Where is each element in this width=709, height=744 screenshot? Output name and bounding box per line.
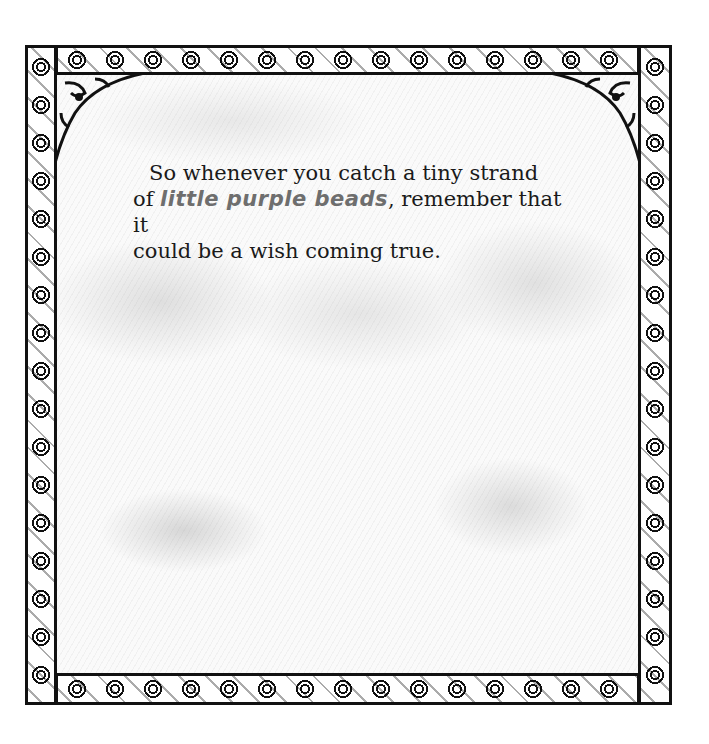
- story-line-1: So whenever you catch a tiny strand: [133, 160, 573, 186]
- story-text: So whenever you catch a tiny strand of l…: [133, 160, 573, 264]
- story-line-2-prefix: of: [133, 187, 160, 211]
- frame-bottom-border: [55, 673, 640, 705]
- highlighted-phrase: little purple beads: [160, 187, 388, 211]
- story-line-3: could be a wish coming true.: [133, 238, 573, 264]
- story-line-2: of little purple beads, remember that it: [133, 186, 573, 238]
- book-page: So whenever you catch a tiny strand of l…: [0, 0, 709, 744]
- frame-right-border: [638, 45, 672, 705]
- frame-left-border: [25, 45, 57, 705]
- frame-top-border: [55, 45, 640, 75]
- ornate-frame: [25, 45, 672, 705]
